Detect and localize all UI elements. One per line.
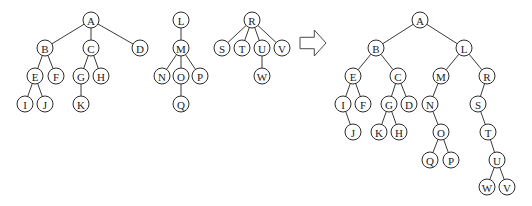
node-label: P xyxy=(448,155,454,167)
forest-A-node-D: D xyxy=(132,40,148,56)
forest-A-node-J: J xyxy=(37,96,53,112)
edge-G-H xyxy=(392,112,397,125)
node-label: O xyxy=(177,71,185,83)
node-label: M xyxy=(176,43,186,55)
forest-R-node-W: W xyxy=(254,68,270,84)
edge-A-B xyxy=(52,24,84,44)
forest-tree-A: ABCDEFGHIJK xyxy=(17,12,148,112)
node-label: F xyxy=(360,99,366,111)
node-label: S xyxy=(475,99,481,111)
edge-M-P xyxy=(185,55,195,70)
forest-to-binary-tree-diagram: ABCDEFGHIJKLMNOPQRSTUVW ABLECMRIFGDNSJKH… xyxy=(0,0,532,206)
binary-node-H: H xyxy=(391,124,407,140)
binary-node-O: O xyxy=(433,124,449,140)
edge-M-N xyxy=(166,55,176,70)
node-label: K xyxy=(77,99,85,111)
node-label: I xyxy=(23,99,27,111)
binary-tree: ABLECMRIFGDNSJKHOTQPUWV xyxy=(335,12,515,195)
forest-R-node-R: R xyxy=(244,12,260,28)
node-label: H xyxy=(395,127,403,139)
edge-N-O xyxy=(433,111,438,124)
edge-B-C xyxy=(381,54,393,69)
binary-node-C: C xyxy=(390,68,406,84)
node-label: B xyxy=(372,43,379,55)
node-label: D xyxy=(405,99,413,111)
edge-E-I xyxy=(346,84,351,97)
binary-node-N: N xyxy=(422,96,438,112)
forest-L-node-P: P xyxy=(192,68,208,84)
forest-L-node-O: O xyxy=(173,68,189,84)
right-arrow-icon xyxy=(300,30,326,56)
edge-L-M xyxy=(446,54,459,70)
node-label: Q xyxy=(426,155,434,167)
node-label: U xyxy=(493,155,501,167)
edge-O-P xyxy=(444,140,449,153)
node-label: W xyxy=(482,182,493,194)
forest-A-node-A: A xyxy=(83,12,99,28)
edge-I-J xyxy=(346,112,351,125)
node-label: U xyxy=(258,43,266,55)
binary-node-I: I xyxy=(335,96,351,112)
binary-node-S: S xyxy=(470,96,486,112)
forest-A-edges xyxy=(28,24,133,96)
forest-L-edges xyxy=(166,28,195,96)
edge-U-V xyxy=(500,168,504,180)
forest-A-node-F: F xyxy=(48,68,64,84)
edge-B-E xyxy=(38,56,43,69)
node-label: E xyxy=(32,71,39,83)
node-label: F xyxy=(53,71,59,83)
binary-node-A: A xyxy=(412,12,428,28)
edge-C-D xyxy=(401,83,406,96)
node-label: D xyxy=(136,43,144,55)
binary-node-M: M xyxy=(433,68,449,84)
edge-S-T xyxy=(481,112,486,125)
edge-A-L xyxy=(427,24,458,43)
node-label: N xyxy=(158,71,166,83)
binary-node-P: P xyxy=(443,152,459,168)
node-label: V xyxy=(503,182,511,194)
binary-node-L: L xyxy=(456,40,472,56)
edge-L-R xyxy=(469,54,482,70)
edge-B-E xyxy=(358,54,371,70)
edge-R-U xyxy=(255,28,260,41)
edge-E-J xyxy=(38,84,43,97)
forest-A-node-H: H xyxy=(93,68,109,84)
forest-L-node-L: L xyxy=(173,12,189,28)
node-label: R xyxy=(248,15,256,27)
forest-R-node-V: V xyxy=(274,40,290,56)
node-label: C xyxy=(394,71,401,83)
node-label: N xyxy=(426,99,434,111)
node-label: G xyxy=(385,99,393,111)
binary-node-F: F xyxy=(355,96,371,112)
forest-tree-R: RSTUVW xyxy=(214,12,290,84)
node-label: H xyxy=(97,71,105,83)
node-label: S xyxy=(219,43,225,55)
node-label: E xyxy=(350,71,357,83)
edge-A-D xyxy=(98,24,133,44)
forest-L-node-N: N xyxy=(154,68,170,84)
forest-R-node-S: S xyxy=(214,40,230,56)
node-label: T xyxy=(485,127,492,139)
edge-B-F xyxy=(48,55,53,68)
forest-R-node-T: T xyxy=(234,40,250,56)
edge-C-G xyxy=(391,84,395,97)
binary-node-R: R xyxy=(479,68,495,84)
forest-L-node-Q: Q xyxy=(173,96,189,112)
node-label: R xyxy=(483,71,491,83)
transform-arrow-icon xyxy=(300,30,326,56)
forest-L-node-M: M xyxy=(173,40,189,56)
binary-node-Q: Q xyxy=(422,152,438,168)
forest-A-node-C: C xyxy=(83,40,99,56)
node-label: L xyxy=(461,43,468,55)
forest-A-node-B: B xyxy=(37,40,53,56)
node-label: J xyxy=(43,99,48,111)
forest-R-node-U: U xyxy=(254,40,270,56)
node-label: C xyxy=(87,43,94,55)
edge-M-N xyxy=(433,83,438,96)
node-label: L xyxy=(178,15,185,27)
edge-E-F xyxy=(356,84,361,97)
binary-node-B: B xyxy=(368,40,384,56)
binary-node-E: E xyxy=(345,68,361,84)
node-label: A xyxy=(416,15,424,27)
edge-E-I xyxy=(28,84,33,97)
